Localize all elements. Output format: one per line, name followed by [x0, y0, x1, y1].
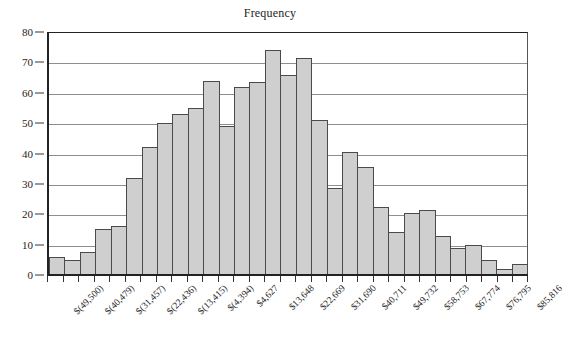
x-tick-mark: [249, 276, 250, 282]
x-tick-mark: [109, 276, 110, 282]
y-tick-mark: [35, 244, 44, 245]
bar: [219, 126, 235, 275]
x-tick-mark: [326, 276, 327, 282]
y-tick-label: 60: [22, 87, 33, 99]
x-tick-mark: [171, 276, 172, 282]
x-tick-mark: [63, 276, 64, 282]
x-tick-mark: [264, 276, 265, 282]
bar: [249, 82, 265, 275]
bar: [80, 252, 96, 275]
x-tick-mark: [512, 276, 513, 282]
x-tick-mark: [373, 276, 374, 282]
y-tick-label: 20: [22, 208, 33, 220]
x-tick-label: $76,795: [504, 283, 533, 312]
x-tick-mark: [140, 276, 141, 282]
x-tick-mark: [218, 276, 219, 282]
x-tick-label: $(22,436): [165, 283, 198, 316]
x-tick-mark: [125, 276, 126, 282]
x-tick-label: $58,753: [442, 283, 471, 312]
x-tick-label: $(4,394): [225, 283, 255, 313]
y-tick-label: 70: [22, 56, 33, 68]
y-tick-label: 50: [22, 117, 33, 129]
bar: [327, 188, 343, 275]
x-tick-mark: [94, 276, 95, 282]
x-tick-label: $(49,500): [72, 283, 105, 316]
x-tick-mark: [450, 276, 451, 282]
x-tick-mark: [295, 276, 296, 282]
plot-area: [47, 32, 528, 275]
x-tick-mark: [78, 276, 79, 282]
bar: [435, 236, 451, 275]
x-tick-label: $85,816: [535, 283, 564, 312]
x-tick-label: $4,627: [255, 283, 281, 309]
bar: [188, 108, 204, 275]
bar: [311, 120, 327, 275]
x-tick-label: $13,648: [287, 283, 316, 312]
bar: [388, 232, 404, 275]
x-tick-mark: [47, 276, 48, 282]
bar: [404, 213, 420, 275]
x-tick-label: $(13,415): [196, 283, 229, 316]
x-tick-mark: [280, 276, 281, 282]
x-tick-mark: [435, 276, 436, 282]
y-tick-label: 0: [28, 269, 34, 281]
bar: [157, 123, 173, 275]
x-tick-mark: [342, 276, 343, 282]
x-tick-mark: [156, 276, 157, 282]
x-tick-mark: [187, 276, 188, 282]
x-tick-mark: [497, 276, 498, 282]
x-axis-ticks: [47, 276, 528, 283]
bar: [265, 50, 281, 275]
x-tick-mark: [481, 276, 482, 282]
bar: [419, 210, 435, 275]
y-tick-label: 30: [22, 178, 33, 190]
x-tick-mark: [202, 276, 203, 282]
x-tick-mark: [404, 276, 405, 282]
x-tick-mark: [388, 276, 389, 282]
y-tick-mark: [35, 123, 44, 124]
x-tick-label: $40,711: [380, 283, 409, 312]
x-tick-mark: [233, 276, 234, 282]
bar: [481, 260, 497, 275]
x-tick-mark: [466, 276, 467, 282]
bar: [95, 229, 111, 275]
y-tick-mark: [35, 62, 44, 63]
bar: [465, 245, 481, 275]
x-tick-label: $(31,457): [134, 283, 167, 316]
bar: [342, 152, 358, 275]
x-tick-label: $22,669: [318, 283, 347, 312]
y-tick-mark: [35, 214, 44, 215]
y-tick-mark: [35, 153, 44, 154]
bar: [450, 248, 466, 275]
x-tick-label: $49,732: [411, 283, 440, 312]
y-tick-label: 80: [22, 26, 33, 38]
bar: [373, 207, 389, 275]
bar: [142, 147, 158, 275]
bar: [49, 257, 65, 275]
y-tick-label: 10: [22, 239, 33, 251]
y-tick-mark: [35, 275, 44, 276]
bar: [126, 178, 142, 275]
bar: [296, 58, 312, 275]
x-tick-label: $31,690: [349, 283, 378, 312]
x-axis-labels: $(49,500)$(40,479)$(31,457)$(22,436)$(13…: [0, 283, 540, 345]
bar: [203, 81, 219, 275]
bar: [280, 75, 296, 275]
x-tick-mark: [311, 276, 312, 282]
bar-series: [49, 33, 527, 275]
x-tick-mark: [357, 276, 358, 282]
y-tick-mark: [35, 183, 44, 184]
bar: [234, 87, 250, 275]
x-tick-label: $(40,479): [103, 283, 136, 316]
bar: [64, 260, 80, 275]
bar: [357, 167, 373, 275]
x-tick-mark: [419, 276, 420, 282]
chart-title: Frequency: [0, 6, 540, 21]
y-tick-label: 40: [22, 148, 33, 160]
y-tick-mark: [35, 92, 44, 93]
x-tick-label: $67,774: [473, 283, 502, 312]
y-tick-mark: [35, 32, 44, 33]
bar: [111, 226, 127, 275]
x-tick-mark: [527, 276, 528, 282]
